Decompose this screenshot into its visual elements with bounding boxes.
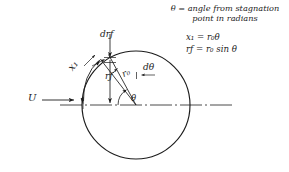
angle-theta-arc <box>118 90 127 105</box>
label-theta: θ <box>131 94 136 104</box>
equation-list: x₁ = r₀θ rƒ = r₀ sin θ <box>186 31 237 56</box>
equation-x1: x₁ = r₀θ <box>186 31 237 43</box>
diagram-canvas <box>0 0 289 172</box>
equation-rf: rƒ = r₀ sin θ <box>186 43 237 55</box>
label-drf: drƒ <box>100 29 113 39</box>
angle-dtheta-arc <box>113 69 118 74</box>
label-freestream-velocity: U <box>28 92 36 103</box>
definition-line-2: point in radians <box>163 13 287 23</box>
x1-leader-line <box>84 55 95 66</box>
label-dtheta: dθ <box>143 62 154 72</box>
definition-line-1: θ = angle from stagnation <box>163 3 287 13</box>
label-rf: rƒ <box>105 71 113 81</box>
arc-x1-surface-distance <box>83 61 99 102</box>
stagnation-point-diagram: θ = angle from stagnation point in radia… <box>0 0 289 172</box>
theta-definition-note: θ = angle from stagnation point in radia… <box>163 3 287 24</box>
